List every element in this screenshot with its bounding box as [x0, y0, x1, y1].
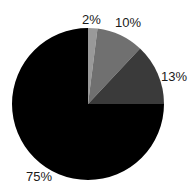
pie-slice-label-3: 75% — [26, 170, 52, 183]
pie-slice-label-1: 10% — [115, 16, 141, 29]
pie-chart: 2% 10% 13% 75% — [0, 0, 194, 193]
pie-slice-label-2: 13% — [161, 70, 187, 83]
pie-chart-canvas — [0, 0, 194, 193]
pie-slice-label-0: 2% — [82, 13, 101, 26]
pie-slices-group — [12, 28, 164, 180]
